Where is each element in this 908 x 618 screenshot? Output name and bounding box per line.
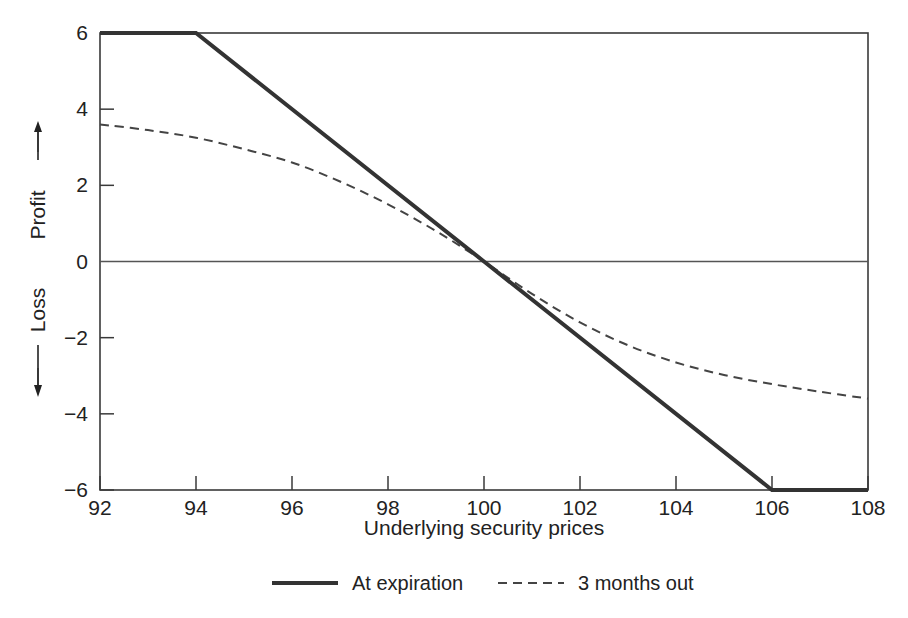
- x-tick-label: 96: [280, 496, 303, 519]
- x-tick-label: 92: [88, 496, 111, 519]
- y-tick-label: −2: [64, 326, 88, 349]
- y-tick-label: −4: [64, 402, 88, 425]
- legend-label-at-expiration: At expiration: [352, 572, 463, 594]
- y-tick-label: −6: [64, 478, 88, 501]
- y-tick-label: 0: [76, 250, 88, 273]
- x-axis-title: Underlying security prices: [364, 516, 604, 539]
- y-axis-loss-label: Loss: [26, 288, 49, 332]
- y-tick-label: 4: [76, 97, 88, 120]
- x-tick-label: 106: [754, 496, 789, 519]
- legend-label-3-months-out: 3 months out: [578, 572, 694, 594]
- x-tick-label: 94: [184, 496, 208, 519]
- y-tick-label: 2: [76, 173, 88, 196]
- y-tick-label: 6: [76, 21, 88, 44]
- payoff-diagram: 92949698100102104106108 −6−4−20246 Under…: [0, 0, 908, 618]
- y-axis-profit-label: Profit: [26, 190, 49, 239]
- x-tick-label: 108: [850, 496, 885, 519]
- chart-figure: 92949698100102104106108 −6−4−20246 Under…: [0, 0, 908, 618]
- x-tick-label: 104: [658, 496, 693, 519]
